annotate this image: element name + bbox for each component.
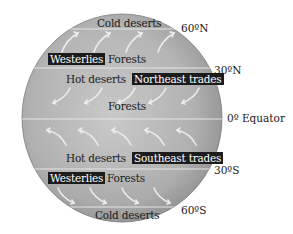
latitude-label-60s: 60ºS (181, 204, 207, 217)
wind-belts-diagram: Cold deserts Westerlies Forests Hot dese… (0, 0, 293, 234)
zone-label-north-forests: Forests (108, 53, 146, 66)
zone-label-north-hot-deserts: Hot deserts (66, 73, 126, 86)
zone-label-south-hot-deserts: Hot deserts (66, 152, 126, 165)
zone-label-south-cold-deserts: Cold deserts (95, 209, 160, 222)
latitude-label-30n: 30ºN (214, 64, 242, 77)
wind-label-northeast-trades: Northeast trades (132, 73, 224, 85)
latitude-label-equator: 0º Equator (227, 112, 285, 125)
earth-sphere (22, 14, 222, 222)
zone-label-north-cold-deserts: Cold deserts (97, 17, 162, 30)
wind-label-southeast-trades: Southeast trades (132, 152, 223, 164)
latitude-label-30s: 30ºS (214, 164, 240, 177)
zone-label-equator-forests: Forests (108, 100, 146, 113)
zone-label-south-forests: Forests (107, 172, 145, 185)
wind-label-south-westerlies: Westerlies (48, 172, 105, 184)
latitude-label-60n: 60ºN (181, 22, 209, 35)
wind-label-north-westerlies: Westerlies (48, 53, 105, 65)
